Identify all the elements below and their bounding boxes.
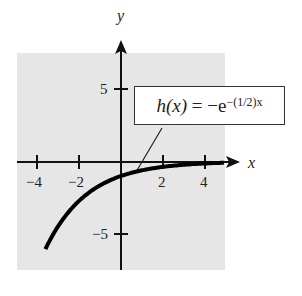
y-axis-label: y <box>117 8 124 24</box>
x-tick-label-neg4: −4 <box>26 175 42 190</box>
x-axis-label: x <box>248 155 255 171</box>
x-tick-label-neg2: −2 <box>68 175 84 190</box>
y-tick-label-neg5: −5 <box>92 227 108 242</box>
chart-canvas <box>0 0 302 296</box>
y-tick-label-5: 5 <box>100 82 108 97</box>
x-tick-label-2: 2 <box>158 175 166 190</box>
function-equals: = −e <box>187 95 226 117</box>
function-label-box: h(x) = −e −(1/2)x <box>134 86 285 125</box>
function-exponent: −(1/2)x <box>226 95 262 110</box>
function-name: h(x) <box>156 95 187 117</box>
x-tick-label-4: 4 <box>200 175 208 190</box>
